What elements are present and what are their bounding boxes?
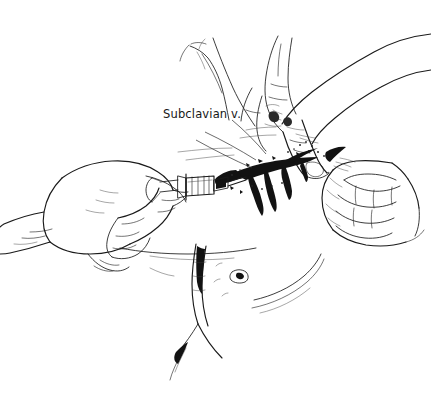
operator-right-hand (241, 34, 431, 179)
operator-left-hand (0, 161, 188, 271)
neck-shoulder-contours (180, 38, 255, 126)
chest-wall (120, 244, 324, 380)
assistant-retracting-hand (322, 147, 424, 246)
illustration-canvas (0, 0, 431, 394)
medical-illustration-figure: Subclavian v. (0, 0, 431, 394)
annotation-leader-line (196, 120, 266, 168)
